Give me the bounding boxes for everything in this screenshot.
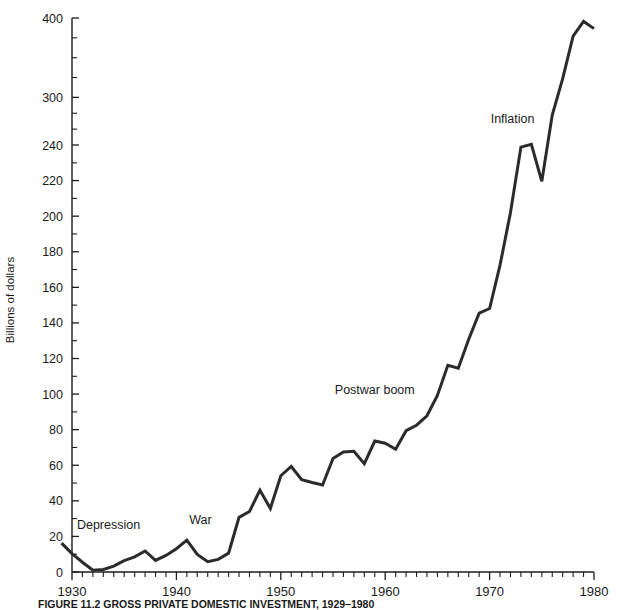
figure-container: 020406080100120140160180200220240300400 … (0, 0, 623, 610)
chart-annotation: War (189, 513, 211, 527)
x-tick-label: 1950 (266, 584, 295, 599)
y-tick-label: 180 (42, 245, 63, 259)
y-tick-label: 140 (42, 316, 63, 330)
y-tick-label: 400 (42, 12, 63, 26)
y-axis-title: Billions of dollars (4, 257, 16, 344)
y-tick-label: 200 (42, 210, 63, 224)
x-tick-label: 1940 (162, 584, 191, 599)
y-tick-label: 0 (56, 566, 63, 580)
annotation-layer: DepressionWarPostwar boomInflation (77, 112, 535, 533)
y-tick-label: 160 (42, 281, 63, 295)
figure-caption: FIGURE 11.2 GROSS PRIVATE DOMESTIC INVES… (38, 598, 618, 610)
y-tick-label: 80 (49, 423, 63, 437)
y-tick-label: 300 (42, 91, 63, 105)
x-tick-label: 1980 (580, 584, 609, 599)
chart-annotation: Inflation (491, 112, 535, 126)
data-series-line (62, 21, 594, 570)
y-tick-label: 20 (49, 530, 63, 544)
plot-area (62, 21, 594, 570)
y-tick-label: 120 (42, 352, 63, 366)
x-tick-label: 1930 (58, 584, 87, 599)
x-axis: 193019401950196019701980 (58, 572, 609, 599)
y-tick-label: 240 (42, 139, 63, 153)
x-tick-label: 1970 (475, 584, 504, 599)
y-tick-label: 100 (42, 388, 63, 402)
y-axis: 020406080100120140160180200220240300400 (42, 12, 79, 580)
y-tick-label: 60 (49, 459, 63, 473)
x-tick-label: 1960 (371, 584, 400, 599)
y-axis-title-text: Billions of dollars (4, 257, 16, 344)
investment-line-chart: 020406080100120140160180200220240300400 … (0, 0, 623, 610)
chart-annotation: Postwar boom (335, 383, 415, 397)
y-tick-label: 40 (49, 494, 63, 508)
chart-annotation: Depression (77, 518, 140, 532)
y-tick-label: 220 (42, 174, 63, 188)
